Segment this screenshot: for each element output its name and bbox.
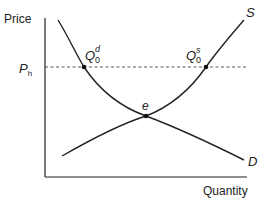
supply-curve-label: S	[246, 6, 255, 19]
qd-symbol: Q	[85, 49, 95, 62]
equilibrium-label: e	[142, 100, 149, 112]
point-equilibrium	[144, 114, 149, 119]
demand-curve	[58, 20, 244, 160]
label-quantity-supplied: Q s 0	[186, 45, 210, 65]
y-axis-label: Price	[4, 13, 31, 25]
demand-curve-label: D	[248, 155, 257, 168]
label-quantity-demanded: Q d 0	[85, 45, 109, 65]
price-line-label-sub: h	[28, 69, 32, 78]
qd-superscript: d	[95, 45, 100, 54]
point-quantity-demanded	[82, 65, 87, 70]
diagram-canvas	[0, 0, 272, 203]
x-axis-label: Quantity	[203, 185, 248, 197]
qs-superscript: s	[196, 46, 201, 55]
price-line-label-main: P	[19, 61, 28, 76]
supply-curve	[62, 20, 244, 156]
qs-subscript: 0	[196, 56, 201, 65]
qs-symbol: Q	[186, 49, 196, 62]
qd-subscript: 0	[95, 56, 100, 65]
price-line-label: Ph	[19, 62, 32, 78]
point-quantity-supplied	[204, 65, 209, 70]
